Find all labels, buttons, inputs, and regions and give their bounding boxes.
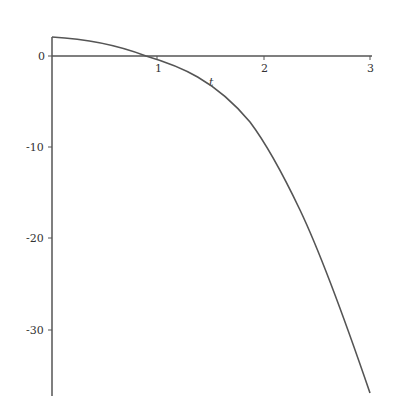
y-tick-label-0: 0 xyxy=(38,50,45,63)
y-tick-label-30: -30 xyxy=(26,324,44,337)
chart: 1 2 3 t 0 -10 -20 -30 xyxy=(0,0,397,417)
data-curve xyxy=(52,37,370,393)
y-tick-label-10: -10 xyxy=(26,141,44,154)
x-tick-label-3: 3 xyxy=(367,62,374,75)
y-tick-label-20: -20 xyxy=(26,232,44,245)
x-tick-label-1: 1 xyxy=(155,62,162,75)
x-tick-label-2: 2 xyxy=(261,62,268,75)
